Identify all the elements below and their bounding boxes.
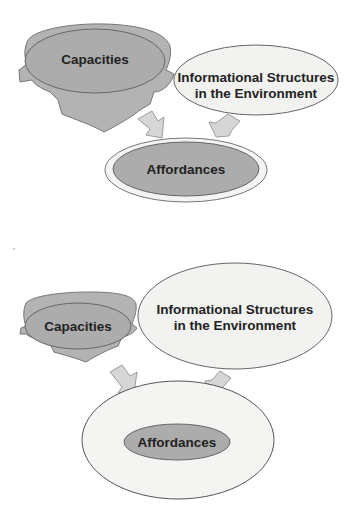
info-structures-line1-bottom: Informational Structures [155,302,315,318]
capacities-label-bottom: Capacities [38,319,118,335]
arrow-capacities-to-affordances-top [138,111,164,138]
bottom-diagram [20,263,332,499]
affordances-label-bottom: Affordances [127,435,227,451]
info-structures-label-top: Informational Structures in the Environm… [176,70,336,102]
info-structures-label-bottom: Informational Structures in the Environm… [155,302,315,334]
affordances-label-top: Affordances [136,162,236,178]
info-structures-line2-bottom: in the Environment [155,318,315,334]
arrow-info-to-affordances-top [209,114,240,137]
speck [13,248,15,250]
capacities-label-top: Capacities [55,52,135,68]
info-structures-line1-top: Informational Structures [176,70,336,86]
info-structures-line2-top: in the Environment [176,86,336,102]
